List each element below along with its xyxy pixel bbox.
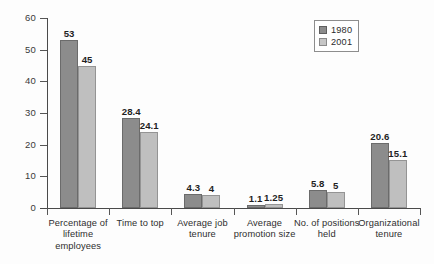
x-axis-category-label: Percentage oflifetimeemployees bbox=[43, 218, 113, 252]
x-axis-tick bbox=[171, 208, 172, 215]
bar-1980-3 bbox=[247, 205, 265, 208]
x-axis-tick bbox=[47, 208, 48, 215]
plot-area: 534528.424.14.341.11.255.8520.615.1 bbox=[47, 18, 420, 208]
x-axis-tick bbox=[109, 208, 110, 215]
legend-item-2001: 2001 bbox=[319, 36, 352, 48]
bar-1980-0 bbox=[60, 40, 78, 208]
x-axis-tick bbox=[296, 208, 297, 215]
bar-1980-2 bbox=[184, 194, 202, 208]
x-axis-category-label: Averagepromotion size bbox=[230, 218, 300, 241]
bar-value-label: 5 bbox=[319, 180, 353, 191]
chart-legend: 1980 2001 bbox=[314, 20, 359, 52]
bar-chart: 0102030405060 534528.424.14.341.11.255.8… bbox=[0, 0, 434, 264]
legend-label-2001: 2001 bbox=[331, 37, 352, 47]
y-axis-tick-label: 50 bbox=[2, 44, 36, 55]
bar-2001-5 bbox=[389, 160, 407, 208]
y-axis-tick-label: 60 bbox=[2, 12, 36, 23]
x-axis-category-label: Time to top bbox=[105, 218, 175, 229]
legend-swatch-2001-icon bbox=[319, 38, 327, 46]
y-axis-tick-label: 0 bbox=[2, 202, 36, 213]
bar-1980-4 bbox=[309, 190, 327, 208]
legend-label-1980: 1980 bbox=[331, 25, 352, 35]
bar-value-label: 53 bbox=[52, 28, 86, 39]
x-axis-tick bbox=[234, 208, 235, 215]
y-axis-tick-label: 40 bbox=[2, 75, 36, 86]
bar-value-label: 24.1 bbox=[132, 120, 166, 131]
bar-value-label: 20.6 bbox=[363, 131, 397, 142]
bar-2001-2 bbox=[202, 195, 220, 208]
y-axis-tick-label: 30 bbox=[2, 107, 36, 118]
y-axis-tick-label: 20 bbox=[2, 139, 36, 150]
bar-value-label: 28.4 bbox=[114, 106, 148, 117]
bar-value-label: 4 bbox=[194, 183, 228, 194]
bar-2001-1 bbox=[140, 132, 158, 208]
x-axis-tick bbox=[358, 208, 359, 215]
x-axis-category-label: No. of positionsheld bbox=[292, 218, 362, 241]
legend-item-1980: 1980 bbox=[319, 24, 352, 36]
x-axis-category-label: Average jobtenure bbox=[167, 218, 237, 241]
bar-2001-0 bbox=[78, 66, 96, 209]
bar-2001-4 bbox=[327, 192, 345, 208]
legend-swatch-1980-icon bbox=[319, 26, 327, 34]
bar-value-label: 45 bbox=[70, 54, 104, 65]
y-axis-tick-label: 10 bbox=[2, 170, 36, 181]
bar-value-label: 1.25 bbox=[257, 192, 291, 203]
bar-1980-1 bbox=[122, 118, 140, 208]
x-axis-line bbox=[40, 208, 421, 209]
x-axis-tick bbox=[420, 208, 421, 215]
bar-value-label: 15.1 bbox=[381, 148, 415, 159]
x-axis-category-label: Organizationaltenure bbox=[354, 218, 424, 241]
bar-2001-3 bbox=[265, 204, 283, 208]
